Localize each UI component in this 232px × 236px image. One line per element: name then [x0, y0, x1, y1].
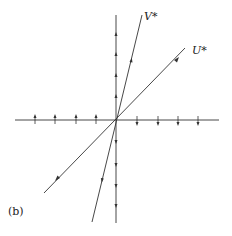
- panel-label: (b): [8, 205, 24, 218]
- right-axis-arrows: [136, 116, 200, 126]
- phase-diagram: [0, 0, 232, 236]
- v-star-label: V*: [144, 10, 157, 23]
- left-axis-arrows: [34, 114, 98, 124]
- u-star-line: [44, 48, 185, 193]
- u-star-label: U*: [192, 44, 207, 57]
